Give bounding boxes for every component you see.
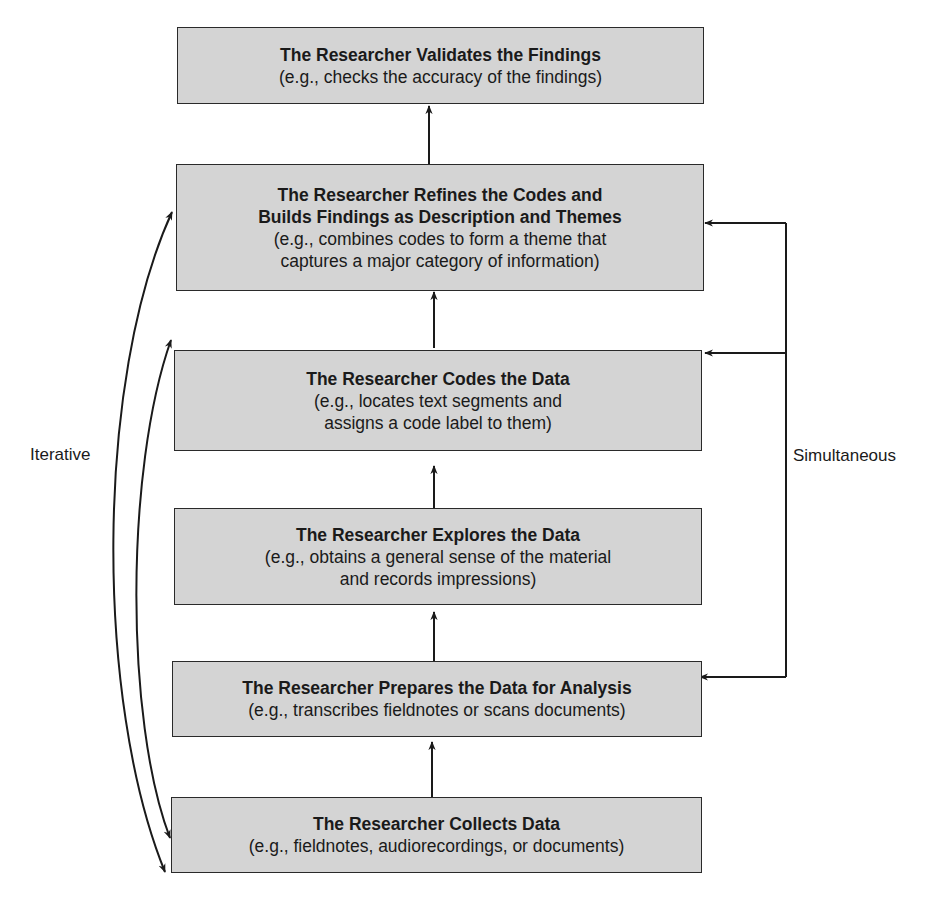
step-description: (e.g., combines codes to form a theme th… [274,228,607,272]
step-description: (e.g., transcribes fieldnotes or scans d… [248,699,625,721]
step-title: The Researcher Codes the Data [306,368,570,390]
iterative-arc-inner [136,340,171,838]
simultaneous-bracket [700,223,786,677]
step-refine-codes: The Researcher Refines the Codes and Bui… [176,164,704,291]
step-description: (e.g., locates text segments and assigns… [314,390,562,434]
step-title: The Researcher Refines the Codes and Bui… [258,184,622,228]
step-description: (e.g., checks the accuracy of the findin… [279,66,602,88]
step-code-data: The Researcher Codes the Data (e.g., loc… [174,350,702,451]
iterative-arc-outer [113,212,172,872]
step-title: The Researcher Explores the Data [296,524,580,546]
step-title: The Researcher Validates the Findings [280,44,601,66]
step-title: The Researcher Collects Data [313,813,560,835]
iterative-arcs [113,212,172,872]
step-description: (e.g., fieldnotes, audiorecordings, or d… [249,835,624,857]
step-prepare-data: The Researcher Prepares the Data for Ana… [172,661,702,737]
flowchart-canvas: The Researcher Validates the Findings (e… [0,0,947,912]
simultaneous-label: Simultaneous [793,446,896,466]
step-title: The Researcher Prepares the Data for Ana… [242,677,631,699]
step-explore-data: The Researcher Explores the Data (e.g., … [174,508,702,605]
step-collect-data: The Researcher Collects Data (e.g., fiel… [171,797,702,873]
iterative-label: Iterative [30,445,90,465]
step-validate-findings: The Researcher Validates the Findings (e… [177,27,704,104]
step-description: (e.g., obtains a general sense of the ma… [265,546,611,590]
